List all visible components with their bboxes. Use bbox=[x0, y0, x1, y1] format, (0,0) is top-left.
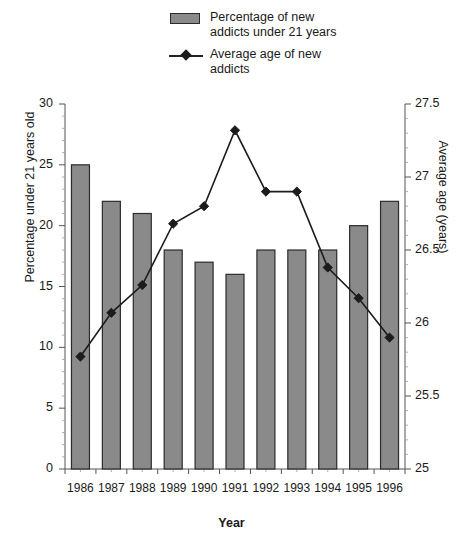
legend-label-bars: Percentage of new addicts under 21 years bbox=[210, 10, 336, 40]
y-right-tick-26: 26 bbox=[415, 315, 429, 329]
chart-container: Percentage of new addicts under 21 years… bbox=[0, 0, 463, 542]
legend-label-line: Average age of new addicts bbox=[210, 47, 321, 77]
x-axis-title: Year bbox=[0, 516, 463, 530]
bar-1994 bbox=[319, 250, 337, 469]
bar-1992 bbox=[257, 250, 275, 469]
legend-line-line2: addicts bbox=[210, 62, 321, 77]
x-tick-1993: 1993 bbox=[281, 481, 312, 495]
y-right-tick-25.5: 25.5 bbox=[415, 388, 439, 402]
legend-item-line: Average age of new addicts bbox=[168, 47, 428, 77]
x-tick-1988: 1988 bbox=[127, 481, 158, 495]
bar-1993 bbox=[288, 250, 306, 469]
y-left-tick-20: 20 bbox=[0, 218, 53, 232]
y-left-tick-10: 10 bbox=[0, 339, 53, 353]
x-tick-1995: 1995 bbox=[343, 481, 374, 495]
bar-1988 bbox=[133, 214, 151, 470]
x-tick-1990: 1990 bbox=[189, 481, 220, 495]
y-right-tick-27.5: 27.5 bbox=[415, 96, 439, 110]
y-left-tick-0: 0 bbox=[0, 461, 53, 475]
y-right-tick-27: 27 bbox=[415, 169, 429, 183]
bar-1995 bbox=[350, 226, 368, 469]
y-left-tick-5: 5 bbox=[0, 400, 53, 414]
chart-legend: Percentage of new addicts under 21 years… bbox=[168, 10, 428, 84]
x-tick-1989: 1989 bbox=[158, 481, 189, 495]
y-axis-right-title: Average age (years) bbox=[436, 47, 450, 347]
y-right-tick-25: 25 bbox=[415, 461, 429, 475]
x-tick-1994: 1994 bbox=[312, 481, 343, 495]
bar-1989 bbox=[164, 250, 182, 469]
y-left-tick-25: 25 bbox=[0, 157, 53, 171]
legend-bars-line1: Percentage of new bbox=[210, 10, 336, 25]
legend-item-bars: Percentage of new addicts under 21 years bbox=[168, 10, 428, 40]
x-tick-1987: 1987 bbox=[96, 481, 127, 495]
x-tick-1992: 1992 bbox=[250, 481, 281, 495]
bar-swatch-icon bbox=[168, 10, 210, 36]
y-axis-left-title: Percentage under 21 years old bbox=[23, 47, 37, 347]
marker-1989 bbox=[169, 219, 178, 228]
x-tick-1991: 1991 bbox=[220, 481, 251, 495]
bar-1991 bbox=[226, 274, 244, 469]
bar-1986 bbox=[71, 165, 89, 469]
bar-1987 bbox=[102, 201, 120, 469]
y-right-tick-26.5: 26.5 bbox=[415, 242, 439, 256]
x-tick-1996: 1996 bbox=[374, 481, 405, 495]
marker-1992 bbox=[261, 187, 270, 196]
marker-1991 bbox=[230, 126, 239, 135]
y-left-tick-15: 15 bbox=[0, 279, 53, 293]
bar-1990 bbox=[195, 262, 213, 469]
y-left-tick-30: 30 bbox=[0, 96, 53, 110]
legend-bars-line2: addicts under 21 years bbox=[210, 25, 336, 40]
line-marker-icon bbox=[168, 47, 210, 73]
marker-1993 bbox=[292, 187, 301, 196]
marker-1990 bbox=[199, 202, 208, 211]
x-tick-1986: 1986 bbox=[65, 481, 96, 495]
legend-line-line1: Average age of new bbox=[210, 47, 321, 62]
